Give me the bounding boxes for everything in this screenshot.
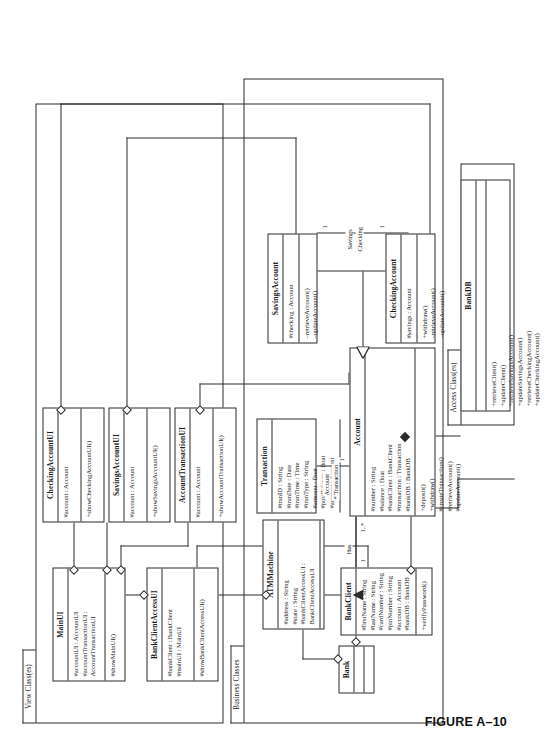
attribute-row: #account : Account bbox=[127, 412, 136, 517]
operation-row: +withdraw() bbox=[427, 352, 436, 511]
class-operations-checkingaccount: +withdraw() –retrieveAccount() –updateAc… bbox=[417, 234, 449, 342]
dependency-arrow-atm-bankclient bbox=[352, 589, 363, 600]
attribute-row: BankClientAccessUI bbox=[307, 524, 316, 624]
attribute-row: #bankDB : BankDB bbox=[402, 572, 411, 630]
attribute-row: #bankClientAccessUI : bbox=[298, 524, 307, 624]
attribute-row: #state : String bbox=[290, 524, 299, 624]
class-operations-mainui: #showMainUI() bbox=[105, 568, 124, 680]
operation-row: +verifyPassword() bbox=[419, 572, 428, 630]
link-bankclient-account bbox=[355, 516, 356, 567]
multiplicity-transaction: 1 bbox=[337, 457, 345, 462]
class-attributes-bank bbox=[354, 646, 364, 692]
association-role-savings: Savings bbox=[345, 228, 353, 250]
operation-row: +retrieveClient() bbox=[489, 184, 498, 406]
class-attributes-bankclient: #firstName : String #lastName : String #… bbox=[356, 568, 416, 634]
class-box-transaction[interactable]: Transaction #tranID : String #tranDate :… bbox=[256, 418, 316, 513]
association-role-account-transaction-line1: Account bbox=[322, 472, 330, 496]
class-name-checkingaccount: CheckingAccount bbox=[386, 234, 401, 342]
operation-row: #retrieveAccount() bbox=[445, 352, 454, 511]
class-attributes-checkingaccount: #savings : Account bbox=[401, 234, 417, 342]
attribute-row: #tranID : String bbox=[275, 423, 284, 508]
multiplicity-savings: 1 bbox=[320, 224, 328, 229]
class-name-bankclientaccessui: BankClientAccessUI bbox=[147, 568, 162, 680]
class-box-bankclient[interactable]: BankClient #firstName : String #lastName… bbox=[340, 567, 432, 635]
operation-row: +retrieveSavingsAccount() bbox=[506, 184, 515, 406]
attribute-row: #tranType : String bbox=[301, 423, 310, 508]
class-operations-checkingaccountui: +showCheckingAccountUI() bbox=[81, 408, 103, 521]
attribute-row: #amount : float bbox=[310, 423, 319, 508]
link-bank-atmmachine-seg2 bbox=[302, 629, 303, 659]
class-box-bankdb[interactable]: BankDB +retrieveClient() +updateClient()… bbox=[460, 179, 510, 411]
operation-row: +updateCheckingAccount() bbox=[532, 184, 541, 406]
class-box-savingsaccount[interactable]: SavingsAccount #checking : Account –retr… bbox=[267, 233, 317, 343]
class-name-savingsaccountui: SavingsAccountUI bbox=[109, 408, 124, 521]
class-name-accounttransactionui: AccountTransactionUI bbox=[175, 408, 190, 521]
class-box-atmmachine[interactable]: ATMMachine #address : String #state : St… bbox=[262, 519, 324, 629]
class-operations-savingsaccount: –retrieveAccount() –updateAccount() bbox=[299, 234, 322, 342]
class-box-bank[interactable]: Bank bbox=[338, 645, 374, 693]
operation-row: +showAccountTransactionUI() bbox=[216, 412, 225, 517]
attribute-row: #cardNumber : String bbox=[376, 572, 385, 630]
operation-row: –updateAccount() bbox=[310, 238, 319, 338]
association-label-has: Has bbox=[344, 543, 352, 555]
generalization-triangle-account bbox=[356, 346, 369, 358]
bus-checkingaccountui-out bbox=[60, 103, 61, 407]
attribute-row: #bankClient : BankClient bbox=[385, 352, 394, 511]
class-attributes-account: #number : String #balance : float #bankC… bbox=[365, 348, 416, 515]
class-box-checkingaccount[interactable]: CheckingAccount #savings : Account +with… bbox=[385, 233, 435, 343]
attribute-row: #number : String bbox=[368, 352, 377, 511]
generalization-bus-to-account bbox=[362, 271, 363, 347]
class-box-checkingaccountui[interactable]: CheckingAccountUI #account : Account +sh… bbox=[42, 407, 104, 522]
bus-savingsaccountui-down bbox=[126, 137, 296, 138]
operation-row: +retrieveCheckingAccount() bbox=[524, 184, 533, 406]
attribute-row: #tranDate : Date bbox=[284, 423, 293, 508]
class-box-mainui[interactable]: MainUI #accountUI : AccountUI #accountTr… bbox=[52, 567, 125, 681]
attribute-row: #tranTime : Time bbox=[292, 423, 301, 508]
attribute-row: #lastName : String bbox=[368, 572, 377, 630]
attribute-row: #account : Account bbox=[61, 412, 70, 517]
figure-caption: FIGURE A–10 bbox=[425, 715, 507, 729]
class-attributes-mainui: #accountUI : AccountUI #accountTransacti… bbox=[68, 568, 105, 680]
multiplicity-checking: 1 bbox=[377, 224, 385, 229]
attribute-row: #balance : float bbox=[377, 352, 386, 511]
class-operations-bankclientaccessui: #showBankClientAccessUI() bbox=[194, 568, 217, 680]
multiplicity-bankclient: 1 bbox=[358, 558, 366, 563]
class-name-checkingaccountui: CheckingAccountUI bbox=[43, 408, 58, 521]
attribute-row: AccountTransactionUI bbox=[88, 572, 97, 676]
operation-row: –retrieveAccount() bbox=[428, 238, 437, 338]
link-bcaui-bankclient-seg1 bbox=[196, 545, 197, 567]
link-mainui-accounttransactionui-seg1 bbox=[120, 545, 121, 567]
class-operations-bankclient: +verifyPassword() bbox=[416, 568, 431, 634]
attribute-row: #pinNumber : String bbox=[385, 572, 394, 630]
class-attributes-checkingaccountui: #account : Account bbox=[58, 408, 81, 521]
multiplicity-account: 1..* bbox=[358, 521, 366, 533]
attribute-row: #account : Account bbox=[394, 572, 403, 630]
attribute-row: #transaction : Transaction bbox=[394, 352, 403, 511]
package-label-view: View Class(es) bbox=[25, 664, 32, 709]
class-attributes-savingsaccountui: #account : Account bbox=[124, 408, 147, 521]
package-label-business: Business Classes bbox=[233, 659, 240, 710]
association-role-account-transaction-line2: * Transaction bbox=[331, 463, 339, 500]
class-attributes-accounttransactionui: #account : Account bbox=[190, 408, 213, 521]
bus-accounttransactionui-down bbox=[199, 383, 349, 384]
class-box-accounttransactionui[interactable]: AccountTransactionUI #account : Account … bbox=[174, 407, 236, 522]
class-operations-bank bbox=[364, 646, 373, 692]
attribute-row: #address : String bbox=[281, 524, 290, 624]
operation-row: #showBankClientAccessUI() bbox=[197, 572, 206, 676]
class-attributes-savingsaccount: #checking : Account bbox=[283, 234, 299, 342]
class-name-account: Account bbox=[350, 348, 365, 515]
operation-row: –updateAccount() bbox=[437, 238, 446, 338]
class-name-mainui: MainUI bbox=[53, 568, 68, 680]
class-operations-account: +deposit() +withdraw() #createTransactio… bbox=[415, 348, 465, 515]
operation-row: +deposit() bbox=[418, 352, 427, 511]
operation-row: #createTransaction() bbox=[436, 352, 445, 511]
class-box-account[interactable]: Account #number : String #balance : floa… bbox=[349, 347, 435, 516]
bus-accounttransactionui-out bbox=[199, 383, 200, 407]
operation-row: +showCheckingAccountUI() bbox=[84, 412, 93, 517]
class-box-savingsaccountui[interactable]: SavingsAccountUI #account : Account +sho… bbox=[108, 407, 170, 522]
class-operations-bankdb: +retrieveClient() +updateClient() +retri… bbox=[486, 180, 544, 410]
link-mainui-savingsaccountui bbox=[106, 522, 107, 567]
package-tab-business: Business Classes bbox=[230, 645, 243, 723]
class-box-bankclientaccessui[interactable]: BankClientAccessUI #bankClient : BankCli… bbox=[146, 567, 218, 681]
